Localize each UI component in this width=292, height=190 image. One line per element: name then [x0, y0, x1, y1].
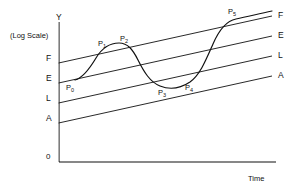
figure-canvas: Y (Log Scale) F E L A 0 F E L A P0 P1 P2… [0, 0, 292, 190]
x-axis-label: Time [248, 175, 264, 183]
point-label-p5: P5 [228, 8, 236, 16]
point-label-p0: P0 [66, 84, 74, 92]
y-tick-label-f: F [46, 54, 51, 63]
y-axis-label: Y [56, 13, 62, 22]
y-axis-scale-note: (Log Scale) [10, 32, 48, 40]
origin-label: 0 [46, 153, 50, 161]
line-label-right-e: E [278, 31, 284, 40]
point-label-p1-sub: 1 [103, 43, 106, 49]
point-label-p4-sub: 4 [190, 87, 193, 93]
y-tick-label-e: E [46, 74, 52, 83]
point-label-p2: P2 [120, 35, 128, 43]
y-tick-label-a: A [46, 114, 52, 123]
line-label-right-a: A [278, 71, 284, 80]
point-label-p1: P1 [98, 40, 106, 48]
point-label-p5-sub: 5 [233, 11, 236, 17]
y-tick-label-l: L [46, 94, 51, 103]
chart-svg [0, 0, 292, 190]
point-label-p3-sub: 3 [163, 92, 166, 98]
point-label-p0-sub: 0 [71, 87, 74, 93]
point-label-p2-sub: 2 [125, 38, 128, 44]
line-label-right-l: L [278, 51, 283, 60]
point-label-p3: P3 [158, 89, 166, 97]
point-label-p4: P4 [185, 84, 193, 92]
line-label-right-f: F [278, 11, 283, 20]
